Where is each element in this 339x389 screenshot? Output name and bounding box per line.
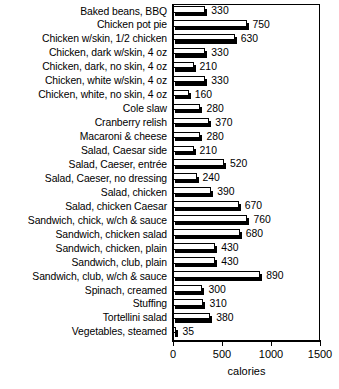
bar-value-label: 630	[241, 33, 258, 44]
bar	[173, 159, 227, 170]
bar	[173, 313, 213, 324]
bar	[173, 118, 212, 129]
bar	[173, 76, 208, 87]
bar-value-label: 280	[206, 103, 223, 114]
bar-face	[173, 48, 205, 55]
x-axis-tick	[320, 341, 321, 346]
bar-value-label: 330	[211, 5, 228, 16]
bar	[173, 6, 208, 17]
bar-face	[173, 104, 200, 111]
bar	[173, 20, 250, 31]
bar-value-label: 310	[209, 298, 226, 309]
bar-face	[173, 146, 194, 153]
bar-value-label: 680	[246, 228, 263, 239]
bar	[173, 62, 197, 73]
bar	[173, 48, 208, 59]
bar-value-label: 890	[266, 270, 283, 281]
bar-value-label: 330	[211, 47, 228, 58]
bars-layer: 3307506303302103301602803702802105202403…	[0, 0, 339, 389]
x-axis-tick	[222, 341, 223, 346]
bar	[173, 132, 203, 143]
bar	[173, 271, 263, 282]
bar-value-label: 390	[217, 186, 234, 197]
bar	[173, 104, 203, 115]
bar-value-label: 430	[221, 242, 238, 253]
bar-face	[173, 34, 235, 41]
bar-face	[173, 159, 224, 166]
bar-face	[173, 229, 240, 236]
bar-value-label: 35	[182, 326, 194, 337]
bar-face	[173, 173, 197, 180]
x-axis-tick	[173, 341, 174, 346]
bar	[173, 243, 218, 254]
bar-value-label: 330	[211, 75, 228, 86]
bar-value-label: 760	[253, 214, 270, 225]
x-axis-tick-label: 1000	[259, 348, 283, 360]
bar-face	[173, 90, 189, 97]
bar	[173, 146, 197, 157]
bar-value-label: 240	[203, 172, 220, 183]
bar-face	[173, 299, 203, 306]
bar-value-label: 370	[215, 117, 232, 128]
x-axis-title: calories	[172, 365, 321, 377]
bar-face	[173, 285, 202, 292]
bar	[173, 187, 214, 198]
bar-face	[173, 313, 210, 320]
bar-value-label: 380	[216, 312, 233, 323]
bar-face	[173, 187, 211, 194]
bar-face	[173, 6, 205, 13]
bar	[173, 201, 242, 212]
bar-value-label: 160	[195, 89, 212, 100]
calories-bar-chart: Baked beans, BBQChicken pot pieChicken w…	[0, 0, 339, 389]
bar-face	[173, 201, 239, 208]
bar-face	[173, 215, 247, 222]
bar-value-label: 750	[253, 19, 270, 30]
bar-face	[173, 257, 215, 264]
bar-value-label: 300	[208, 284, 225, 295]
bar	[173, 299, 206, 310]
bar	[173, 90, 192, 101]
x-axis-tick	[271, 341, 272, 346]
bar-value-label: 210	[200, 61, 217, 72]
x-axis-tick-label: 1500	[308, 348, 332, 360]
bar	[173, 173, 200, 184]
x-axis-tick-label: 500	[213, 348, 231, 360]
bar-face	[173, 243, 215, 250]
bar-value-label: 210	[200, 145, 217, 156]
bar	[173, 257, 218, 268]
bar-face	[173, 118, 209, 125]
bar-face	[173, 271, 260, 278]
bar-face	[173, 327, 176, 334]
bar-value-label: 430	[221, 256, 238, 267]
bar	[173, 215, 250, 226]
bar-face	[173, 76, 205, 83]
x-axis-tick-label: 0	[170, 348, 176, 360]
bar-value-label: 280	[206, 131, 223, 142]
bar-value-label: 670	[245, 200, 262, 211]
bar-value-label: 520	[230, 158, 247, 169]
bar-face	[173, 20, 247, 27]
bar-face	[173, 62, 194, 69]
bar	[173, 285, 205, 296]
bar	[173, 327, 179, 338]
bar	[173, 34, 238, 45]
bar-face	[173, 132, 200, 139]
bar	[173, 229, 243, 240]
